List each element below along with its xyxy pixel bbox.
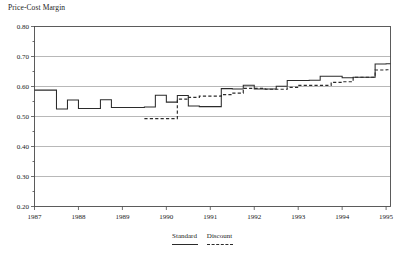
y-tick-label: 0.60 [17, 83, 30, 91]
x-tick-label: 1993 [291, 213, 306, 221]
y-tick-label: 0.20 [17, 203, 30, 211]
x-tick-label: 1987 [28, 213, 43, 221]
x-tick-label: 1992 [247, 213, 262, 221]
x-tick-label: 1990 [159, 213, 174, 221]
x-tick-label: 1989 [115, 213, 130, 221]
chart-figure: Price-Cost Margin 0.800.700.600.500.400.… [0, 0, 404, 256]
legend-swatch-dashed-icon [207, 243, 233, 246]
plot-area: 0.800.700.600.500.400.300.20 19871988198… [0, 0, 404, 256]
y-tick-label: 0.70 [17, 53, 30, 61]
x-tick-label: 1991 [203, 213, 218, 221]
gridlines [35, 57, 391, 177]
y-tick-label: 0.40 [17, 143, 30, 151]
y-axis-ticks: 0.800.700.600.500.400.300.20 [17, 23, 35, 211]
y-tick-label: 0.50 [17, 113, 30, 121]
y-tick-label: 0.80 [17, 23, 30, 31]
x-tick-label: 1988 [71, 213, 86, 221]
legend-label-discount: Discount [207, 233, 232, 240]
y-tick-label: 0.30 [17, 173, 30, 181]
legend-swatch-solid-icon [172, 243, 198, 246]
x-tick-label: 1994 [335, 213, 350, 221]
legend-entry-discount: Discount [207, 233, 233, 246]
x-tick-label: 1995 [379, 213, 394, 221]
legend-label-standard: Standard [172, 233, 197, 240]
chart-legend: Standard Discount [0, 233, 404, 246]
data-series [35, 64, 391, 119]
legend-entry-standard: Standard [172, 233, 198, 246]
x-axis-ticks: 198719881989199019911992199319941995 [28, 207, 394, 222]
